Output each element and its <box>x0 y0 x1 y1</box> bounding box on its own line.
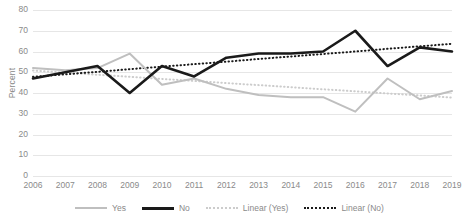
chart-legend: YesNoLinear (Yes)Linear (No) <box>0 203 459 213</box>
legend-swatch-icon <box>75 207 107 209</box>
legend-item-yes[interactable]: Yes <box>75 203 126 213</box>
legend-label: Linear (Yes) <box>243 203 289 213</box>
legend-label: Yes <box>112 203 126 213</box>
series-line-linear-no <box>33 44 452 77</box>
legend-item-linear-no[interactable]: Linear (No) <box>304 203 384 213</box>
legend-swatch-icon <box>304 207 336 209</box>
series-line-linear-yes <box>33 71 452 98</box>
legend-item-linear-yes[interactable]: Linear (Yes) <box>206 203 289 213</box>
legend-swatch-icon <box>206 207 238 209</box>
series-line-yes <box>33 54 452 112</box>
series-line-no <box>33 31 452 93</box>
legend-swatch-icon <box>142 207 174 210</box>
legend-label: Linear (No) <box>341 203 384 213</box>
legend-item-no[interactable]: No <box>142 203 190 213</box>
legend-label: No <box>179 203 190 213</box>
